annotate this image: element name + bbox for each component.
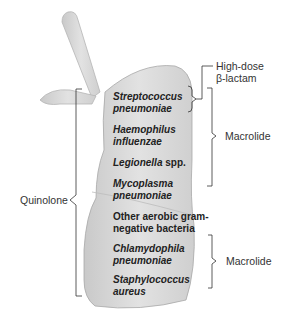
treatment-macrolide-top: Macrolide	[225, 130, 271, 142]
beta-lactam-connector	[196, 66, 213, 99]
treatment-quinolone: Quinolone	[20, 194, 68, 206]
pathogen-line1: Mycoplasma	[113, 178, 173, 189]
quinolone-bracket	[70, 89, 82, 296]
macrolide-top-bracket	[207, 88, 216, 186]
pathogen-line2: pneumoniae	[113, 255, 172, 266]
pathogen-haemophilus: Haemophilus influenzae	[113, 124, 176, 148]
pathogen-line2: pneumoniae	[113, 190, 172, 201]
pathogen-line2: negative bacteria	[113, 223, 195, 234]
treatment-line2: β-lactam	[216, 72, 256, 84]
trachea-shape	[62, 12, 100, 98]
pathogen-gram-negative: Other aerobic gram- negative bacteria	[113, 211, 209, 235]
pathogen-line2: pneumoniae	[113, 103, 172, 114]
pathogen-chlamydophila: Chlamydophila pneumoniae	[113, 243, 185, 267]
pathogen-legionella: Legionella spp.	[113, 157, 186, 169]
macrolide-bottom-bracket	[208, 235, 216, 288]
treatment-high-dose-beta-lactam: High-dose β-lactam	[216, 60, 264, 84]
pathogen-line1: Other aerobic gram-	[113, 211, 209, 222]
pathogen-line2: aureus	[113, 286, 146, 297]
pathogen-line2: influenzae	[113, 136, 162, 147]
pathogen-line1: Haemophilus	[113, 124, 176, 135]
pathogen-staphylococcus: Staphylococcus aureus	[113, 274, 190, 298]
treatment-macrolide-bottom: Macrolide	[226, 255, 272, 267]
lung-diagram: Streptococcus pneumoniae Haemophilus inf…	[0, 0, 291, 321]
pathogen-line2: spp.	[162, 157, 185, 168]
pathogen-mycoplasma: Mycoplasma pneumoniae	[113, 178, 173, 202]
treatment-line1: High-dose	[216, 60, 264, 72]
pathogen-line1: Legionella	[113, 157, 162, 168]
pathogen-line1: Streptococcus	[113, 91, 182, 102]
pathogen-streptococcus: Streptococcus pneumoniae	[113, 91, 182, 115]
pathogen-line1: Chlamydophila	[113, 243, 185, 254]
bronchus-shape	[40, 90, 96, 105]
pathogen-line1: Staphylococcus	[113, 274, 190, 285]
